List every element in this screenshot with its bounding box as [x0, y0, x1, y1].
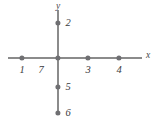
point-label-6: 6 [65, 108, 70, 119]
point-label-7: 7 [38, 65, 43, 76]
data-point-6 [55, 110, 60, 115]
data-point-2 [55, 20, 60, 25]
y-axis-line [57, 10, 59, 114]
data-point-1 [19, 55, 24, 60]
point-label-2: 2 [65, 18, 70, 29]
y-axis-label: y [56, 2, 60, 12]
point-label-4: 4 [116, 65, 121, 76]
data-point-5 [55, 84, 60, 89]
point-label-1: 1 [19, 65, 24, 76]
data-point-3 [85, 55, 90, 60]
data-point-7 [55, 55, 60, 60]
coordinate-axes-figure: x y 1234567 [0, 0, 161, 124]
x-axis-label: x [146, 51, 150, 61]
point-label-3: 3 [85, 65, 90, 76]
data-point-4 [116, 55, 121, 60]
point-label-5: 5 [65, 82, 70, 93]
x-axis-line [8, 57, 142, 59]
